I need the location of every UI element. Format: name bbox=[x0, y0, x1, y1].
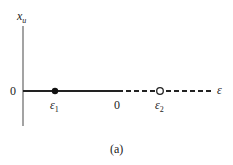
x-zero-label: 0 bbox=[114, 99, 120, 111]
y-axis-label: xu bbox=[17, 10, 26, 25]
point-label-eps2: ε2 bbox=[155, 99, 164, 114]
unstable-point-marker bbox=[157, 88, 164, 95]
origin-label: 0 bbox=[10, 85, 16, 97]
x-axis-label: ε bbox=[217, 84, 222, 96]
bifurcation-diagram bbox=[0, 0, 233, 165]
figure-caption: (a) bbox=[110, 143, 123, 155]
point-label-eps1: ε1 bbox=[50, 99, 59, 114]
stable-point-marker bbox=[52, 88, 58, 94]
